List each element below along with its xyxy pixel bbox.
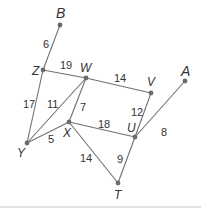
vertex-y-dot <box>25 141 30 146</box>
vertex-label-t: T <box>114 188 123 202</box>
edge-weight-u-a: 8 <box>161 126 167 138</box>
edge-weight-x-u: 18 <box>98 118 110 130</box>
edge-weight-y-x: 5 <box>48 133 54 145</box>
vertex-label-y: Y <box>17 146 26 160</box>
weighted-graph-diagram: 6191417117518128149BZWVAXUYT <box>0 0 201 212</box>
edge-weight-x-t: 14 <box>80 152 92 164</box>
edge-weight-w-v: 14 <box>114 72 126 84</box>
vertex-x-dot <box>67 120 72 125</box>
vertex-label-u: U <box>127 121 136 135</box>
vertex-label-z: Z <box>31 64 40 78</box>
edge-w-y <box>27 78 86 143</box>
vertex-b-dot <box>58 23 63 28</box>
edge-weight-b-z: 6 <box>43 38 49 50</box>
edge-weight-z-w: 19 <box>60 59 72 71</box>
vertex-label-a: A <box>180 63 190 79</box>
vertex-z-dot <box>41 68 46 73</box>
vertex-w-dot <box>84 76 89 81</box>
vertex-t-dot <box>116 181 121 186</box>
edge-weight-z-y: 17 <box>23 98 35 110</box>
vertex-u-dot <box>133 135 138 140</box>
edge-weight-v-u: 12 <box>131 106 143 118</box>
edge-weight-w-y: 11 <box>47 98 58 110</box>
edge-weight-w-x: 7 <box>80 101 86 113</box>
vertex-label-x: X <box>62 126 72 140</box>
vertex-label-b: B <box>56 5 65 21</box>
edge-w-x <box>69 78 86 122</box>
edge-weight-u-t: 9 <box>117 153 123 165</box>
vertex-label-v: V <box>147 75 156 89</box>
vertex-label-w: W <box>80 61 93 75</box>
vertex-a-dot <box>183 79 188 84</box>
vertex-v-dot <box>149 91 154 96</box>
